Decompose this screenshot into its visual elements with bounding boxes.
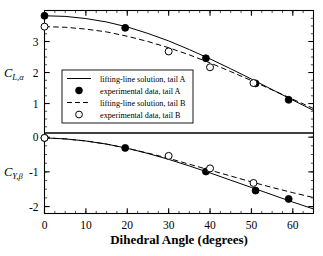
legend-marker-open-circle	[76, 111, 83, 118]
y-tick-label-upper: 3	[33, 36, 39, 48]
data-point-filled	[122, 24, 129, 31]
x-tick-label: 0	[42, 219, 48, 231]
y-tick-label-upper: 1	[33, 98, 39, 110]
y-tick-label-lower: -1	[29, 166, 39, 178]
y-axis-label-lower: CY,β	[4, 165, 23, 181]
y-axis-label-upper-text: CL,α	[4, 66, 24, 82]
data-point-open	[250, 80, 257, 87]
legend-label: lifting-line solution, tail A	[100, 75, 186, 84]
y-tick-label-lower: -2	[29, 201, 39, 213]
x-tick-label: 30	[163, 219, 175, 231]
y-axis-label-lower-text: CY,β	[4, 165, 23, 181]
chart-canvas: 1230-1-20102030405060CL,αCY,βDihedral An…	[0, 0, 323, 256]
y-axis-label-upper: CL,α	[4, 66, 24, 82]
data-point-open	[165, 152, 172, 159]
legend-marker-filled-circle	[76, 87, 83, 94]
x-tick-label: 50	[246, 219, 258, 231]
x-tick-label: 10	[80, 219, 92, 231]
x-tick-label: 60	[287, 219, 299, 231]
data-point-open	[165, 48, 172, 55]
x-tick-label: 40	[204, 219, 216, 231]
data-point-open	[41, 134, 48, 141]
figure: 1230-1-20102030405060CL,αCY,βDihedral An…	[0, 0, 323, 256]
legend: lifting-line solution, tail Aexperimenta…	[62, 70, 193, 123]
data-point-filled	[252, 187, 259, 194]
y-tick-label-lower: 0	[33, 131, 39, 143]
series-line-dashed	[45, 138, 314, 198]
x-axis-title: Dihedral Angle (degrees)	[110, 232, 248, 247]
plot-root: 1230-1-20102030405060CL,αCY,βDihedral An…	[4, 11, 314, 248]
x-tick-label: 20	[122, 219, 134, 231]
data-point-open	[41, 23, 48, 30]
series-group-lower	[41, 134, 314, 209]
data-point-open	[250, 179, 257, 186]
legend-label: experimental data, tail B	[100, 111, 181, 120]
series-line-solid	[45, 138, 314, 209]
legend-label: lifting-line solution, tail B	[100, 99, 186, 108]
data-point-filled	[41, 12, 48, 19]
legend-label: experimental data, tail A	[100, 87, 181, 96]
data-point-filled	[202, 55, 209, 62]
data-point-open	[207, 165, 214, 172]
data-point-filled	[285, 195, 292, 202]
y-tick-label-upper: 2	[33, 67, 39, 79]
data-point-open	[207, 64, 214, 71]
